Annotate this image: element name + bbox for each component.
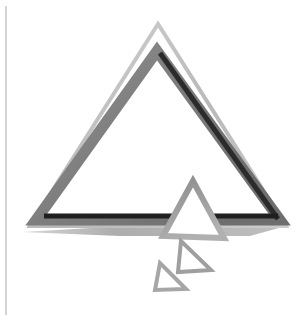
artwork-svg (0, 0, 305, 321)
image-canvas: Grayscale abstract logo: nested triangle… (0, 0, 305, 321)
